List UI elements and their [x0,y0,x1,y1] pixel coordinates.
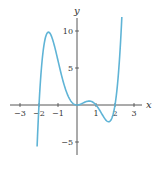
x-tick-label: −3 [14,109,26,118]
ticks: −3−2−1123105−5 [14,27,136,147]
x-tick-label: 1 [93,109,98,118]
y-tick-label: 10 [63,27,73,36]
y-axis-label: y [73,5,80,16]
x-tick-label: 3 [131,109,136,118]
function-plot: −3−2−1123105−5 x y [0,0,160,169]
y-tick-label: 5 [68,64,73,73]
y-tick-label: −5 [61,138,73,147]
axes [10,18,142,155]
x-tick-label: −1 [52,109,64,118]
function-curve [37,17,122,146]
x-axis-label: x [146,99,152,110]
